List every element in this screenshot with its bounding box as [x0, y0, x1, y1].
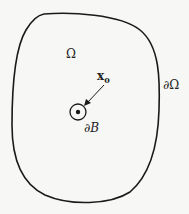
x-subscript: 0 [104, 75, 110, 85]
center-point [76, 110, 80, 114]
domain-label: Ω [66, 48, 76, 60]
arrow-shaft [87, 85, 104, 103]
partial-b-text: ∂B [84, 121, 99, 135]
domain-boundary-curve [12, 13, 159, 202]
omega-text: Ω [66, 47, 76, 61]
domain-boundary-label: ∂Ω [163, 79, 179, 91]
point-label: x0 [97, 70, 110, 84]
diagram-canvas [0, 0, 189, 214]
ball-boundary-label: ∂B [84, 122, 99, 134]
partial-omega-text: ∂Ω [163, 78, 179, 92]
